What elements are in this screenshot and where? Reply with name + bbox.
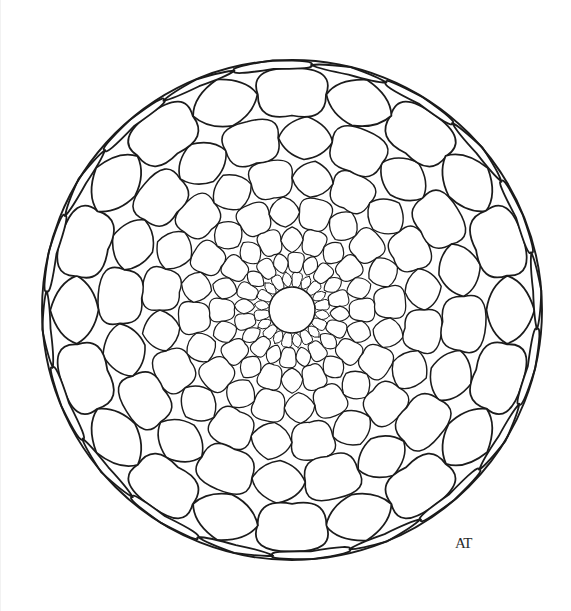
mandala-cell-circle xyxy=(98,267,143,324)
mandala-cell-circle xyxy=(209,298,235,322)
mandala-drawing: AT xyxy=(0,0,571,611)
mandala-cell-star xyxy=(369,258,398,287)
mandala-cell-circle xyxy=(291,421,335,461)
mandala-cell-star xyxy=(323,356,344,378)
mandala-cell-star xyxy=(342,371,370,399)
artist-signature: AT xyxy=(455,535,472,551)
mandala-cell-circle xyxy=(280,347,297,368)
mandala-cell-star xyxy=(214,222,241,249)
mandala-cell-star xyxy=(329,212,357,240)
mandala-cell-circle xyxy=(178,301,210,334)
mandala-cell-circle xyxy=(256,503,328,552)
mandala-cell-star xyxy=(187,333,216,362)
mandala-cell-circle xyxy=(142,266,182,310)
mandala-cell-star xyxy=(323,242,343,263)
mandala-cell-circle xyxy=(441,296,486,353)
mandala-cell-circle xyxy=(403,310,442,354)
mandala-cell-star xyxy=(181,386,216,421)
mandala-cell-circle xyxy=(374,285,406,318)
mandala-cell-circle xyxy=(288,252,304,272)
mandala-cell-star xyxy=(227,380,255,408)
mandala-cell-star xyxy=(157,232,192,269)
mandala-cell-circle xyxy=(256,68,328,117)
mandala-cell-star xyxy=(213,175,251,210)
mandala-cell-circle xyxy=(248,160,292,199)
mandala-cell-star xyxy=(240,242,261,264)
mandala-cell-circle xyxy=(349,298,375,322)
artboard: AT xyxy=(0,0,571,611)
mandala-cell-star xyxy=(368,199,403,234)
